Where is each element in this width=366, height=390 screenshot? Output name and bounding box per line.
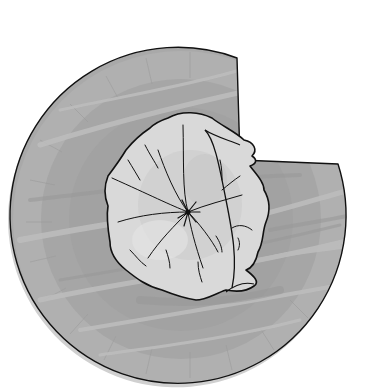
plate-illustration: Grayscale drawing of a paper plate missi…: [0, 0, 366, 390]
